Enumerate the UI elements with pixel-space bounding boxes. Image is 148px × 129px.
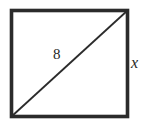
diagonal-length-label: 8 [53, 47, 61, 62]
geometry-figure: 8 x [0, 0, 148, 129]
figure-canvas [0, 0, 148, 129]
side-length-label: x [131, 55, 138, 71]
